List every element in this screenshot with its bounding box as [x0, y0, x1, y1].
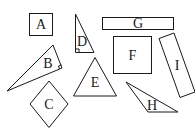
shape-a-square: A [30, 14, 53, 36]
shape-e-label: E [91, 75, 100, 90]
shape-f-label: F [129, 48, 137, 63]
shape-h-label: H [147, 98, 157, 113]
shapes-diagram: A D G F I B E C H [0, 0, 195, 129]
shape-h-triangle: H [126, 82, 178, 113]
shape-b-right-triangle: B [7, 45, 62, 91]
shape-f-square: F [114, 37, 152, 74]
shape-c-label: C [44, 97, 53, 112]
shape-a-label: A [36, 17, 47, 32]
shape-d-label: D [77, 34, 87, 49]
shape-b-label: B [43, 56, 52, 71]
shape-e-triangle: E [74, 58, 117, 97]
shape-d-right-triangle: D [76, 14, 95, 53]
shape-g-rectangle: G [103, 16, 174, 31]
shape-g-label: G [133, 16, 143, 31]
shape-c-rhombus: C [30, 81, 68, 128]
shape-i-label: I [175, 58, 180, 73]
shape-i-rectangle: I [159, 33, 195, 98]
